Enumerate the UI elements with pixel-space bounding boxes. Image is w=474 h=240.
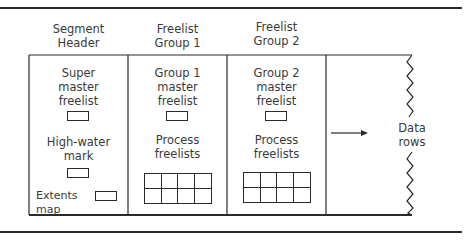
label-line: freelist xyxy=(227,94,326,108)
label-line: freelists xyxy=(128,147,227,161)
grid-cell xyxy=(195,189,212,204)
extents-map-block xyxy=(95,191,117,201)
label-line: Process xyxy=(128,133,227,147)
label-line: High-water xyxy=(29,135,128,149)
right-arrow-icon xyxy=(361,130,368,136)
label-line: master xyxy=(128,80,227,94)
group-2-process-freelists-label: Process freelists xyxy=(227,133,326,161)
label-line: Process xyxy=(227,133,326,147)
grid-cell xyxy=(195,174,212,189)
header-line: Freelist xyxy=(227,20,326,34)
group-2-master-freelist-label: Group 2 master freelist xyxy=(227,66,326,108)
label-line: freelist xyxy=(29,94,128,108)
label-line: master xyxy=(29,80,128,94)
grid-cell xyxy=(162,189,179,204)
super-master-freelist-label: Super master freelist xyxy=(29,66,128,108)
grid-cell xyxy=(277,173,294,188)
grid-cell xyxy=(277,188,294,203)
label-line: mark xyxy=(29,149,128,163)
label-line: Data xyxy=(396,121,428,135)
data-rows-label: Data rows xyxy=(396,121,428,149)
header-line: Header xyxy=(29,36,128,50)
grid-cell xyxy=(178,174,195,189)
group-1-master-freelist-label: Group 1 master freelist xyxy=(128,66,227,108)
header-line: Freelist xyxy=(128,22,227,36)
header-line: Segment xyxy=(29,22,128,36)
grid-cell xyxy=(145,174,162,189)
group-2-process-freelists-grid xyxy=(243,172,311,203)
group-1-master-freelist-block xyxy=(166,111,188,121)
grid-cell xyxy=(294,173,311,188)
zigzag-break-bottom xyxy=(407,152,413,215)
extents-map-label: Extents map xyxy=(36,189,96,217)
group-1-process-freelists-grid xyxy=(144,173,212,204)
grid-cell xyxy=(261,188,278,203)
high-water-mark-label: High-water mark xyxy=(29,135,128,163)
group-2-master-freelist-block xyxy=(265,111,287,121)
label-line: freelist xyxy=(128,94,227,108)
grid-cell xyxy=(294,188,311,203)
grid-cell xyxy=(162,174,179,189)
grid-cell xyxy=(261,173,278,188)
label-line: master xyxy=(227,80,326,94)
grid-cell xyxy=(244,188,261,203)
grid-cell xyxy=(244,173,261,188)
header-line: Group 1 xyxy=(128,36,227,50)
zigzag-break-top xyxy=(407,55,413,117)
grid-cell xyxy=(145,189,162,204)
label-line: rows xyxy=(396,135,428,149)
high-water-mark-block xyxy=(67,168,89,178)
label-line: freelists xyxy=(227,147,326,161)
header-line: Group 2 xyxy=(227,34,326,48)
column-header-freelist-group-1: Freelist Group 1 xyxy=(128,22,227,50)
label-line: Group 1 xyxy=(128,66,227,80)
grid-cell xyxy=(178,189,195,204)
label-line: Group 2 xyxy=(227,66,326,80)
super-master-freelist-block xyxy=(67,111,89,121)
group-1-process-freelists-label: Process freelists xyxy=(128,133,227,161)
column-header-freelist-group-2: Freelist Group 2 xyxy=(227,20,326,48)
column-header-segment-header: Segment Header xyxy=(29,22,128,50)
label-line: Super xyxy=(29,66,128,80)
